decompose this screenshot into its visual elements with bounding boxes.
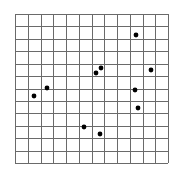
dot-grid-diagram bbox=[0, 0, 178, 170]
grid-dot bbox=[149, 68, 154, 73]
grid-dot bbox=[136, 106, 141, 111]
grid-dot bbox=[82, 125, 87, 130]
grid-dot bbox=[98, 132, 103, 137]
grid-dot bbox=[134, 33, 139, 38]
grid-dot bbox=[45, 86, 50, 91]
grid-lines bbox=[15, 14, 169, 164]
grid-dot bbox=[133, 88, 138, 93]
grid-dot bbox=[32, 94, 37, 99]
grid-dot bbox=[94, 71, 99, 76]
grid-dot bbox=[99, 66, 104, 71]
